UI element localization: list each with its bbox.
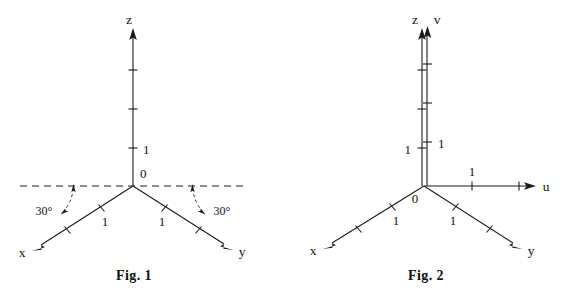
fig1-angle-arc-right-arrowhead-top xyxy=(190,184,194,193)
fig2-v-unit-label: 1 xyxy=(438,136,445,151)
figures-container: z x y 1 0 1 1 30° 30° xyxy=(0,0,563,302)
fig2-y-axis-line xyxy=(424,186,513,243)
fig1-y-unit-label: 1 xyxy=(159,214,166,229)
fig2-x-axis-arrowhead xyxy=(323,243,337,249)
fig1-angle-label-left: 30° xyxy=(36,204,53,218)
fig1-x-unit-label: 1 xyxy=(102,214,109,229)
figure-1-group: z x y 1 0 1 1 30° 30° xyxy=(19,12,248,260)
fig1-x-axis-label: x xyxy=(19,245,26,260)
fig1-y-axis-line xyxy=(133,186,224,244)
fig1-y-axis-label: y xyxy=(239,244,246,259)
fig1-z-unit-label: 1 xyxy=(143,142,150,157)
fig2-origin-label: 0 xyxy=(412,191,419,206)
figure-2-caption: Fig. 2 xyxy=(292,268,560,284)
fig2-z-unit-label: 1 xyxy=(405,142,412,157)
coordinate-axes-diagram: z x y 1 0 1 1 30° 30° xyxy=(0,0,563,302)
fig2-y-axis-arrowhead xyxy=(509,243,523,249)
figure-2-group: z v u x y 1 1 1 0 1 1 xyxy=(310,12,550,258)
fig2-v-axis-label: v xyxy=(434,12,441,27)
fig2-y-unit-label: 1 xyxy=(450,213,457,228)
fig1-origin-label: 0 xyxy=(140,166,147,181)
fig2-u-unit-label: 1 xyxy=(469,164,476,179)
fig1-angle-arc-left-arrowhead-top xyxy=(71,184,75,193)
fig1-angle-label-right: 30° xyxy=(214,204,231,218)
figure-1-caption: Fig. 1 xyxy=(0,268,268,284)
fig2-x-axis-label: x xyxy=(310,243,317,258)
fig2-x-unit-label: 1 xyxy=(393,213,400,228)
fig1-angle-arc-right-arrowhead-bottom xyxy=(198,208,206,214)
fig2-u-axis-label: u xyxy=(543,179,550,194)
fig2-z-axis-label: z xyxy=(412,12,418,27)
fig2-y-axis-label: y xyxy=(528,243,535,258)
fig1-z-axis-label: z xyxy=(126,12,132,27)
fig1-x-axis-arrowhead xyxy=(32,245,46,251)
fig1-x-axis-line xyxy=(41,186,133,245)
fig1-y-axis-arrowhead xyxy=(220,244,234,250)
fig1-angle-arc-left-arrowhead-bottom xyxy=(61,208,69,214)
fig2-x-axis-line xyxy=(332,186,424,243)
